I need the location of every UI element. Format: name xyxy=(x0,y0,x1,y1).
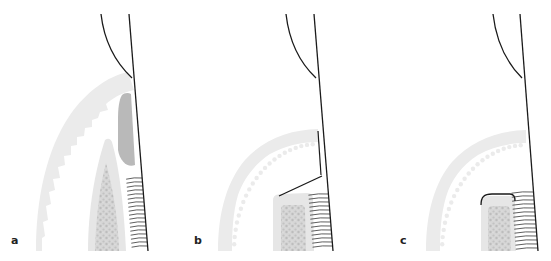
rete-peg xyxy=(480,158,484,162)
rete-peg xyxy=(239,207,243,211)
rete-peg xyxy=(519,143,523,147)
rete-peg xyxy=(471,167,475,171)
periodontal-fiber xyxy=(130,230,146,231)
bone-cancellous-b xyxy=(281,205,306,251)
lesion-a xyxy=(118,93,135,166)
periodontal-fiber xyxy=(512,204,534,205)
periodontal-fiber xyxy=(126,182,142,183)
crown-outline-c xyxy=(493,14,522,78)
periodontal-fiber xyxy=(131,238,147,239)
periodontal-fiber xyxy=(515,244,537,245)
rete-peg xyxy=(462,177,466,181)
rete-peg xyxy=(445,214,449,218)
rete-peg xyxy=(311,142,315,146)
periodontal-fiber xyxy=(310,218,330,219)
epithelium-line-b xyxy=(318,131,321,175)
panel-label-c: c xyxy=(400,234,407,247)
rete-peg xyxy=(283,151,287,155)
periodontal-fiber xyxy=(128,202,144,203)
rete-peg xyxy=(254,176,258,180)
rete-peg xyxy=(459,182,463,186)
rete-peg xyxy=(502,147,506,151)
rete-peg xyxy=(272,157,276,161)
periodontal-fiber xyxy=(514,224,536,225)
rete-peg xyxy=(491,152,495,156)
periodontal-fiber xyxy=(131,234,147,235)
periodontal-fiber xyxy=(514,220,536,221)
periodontal-fiber xyxy=(515,240,537,241)
rete-peg xyxy=(237,213,241,217)
rete-peg xyxy=(452,194,456,198)
periodontal-fiber xyxy=(512,196,534,197)
periodontal-fiber xyxy=(311,230,331,231)
rete-peg xyxy=(267,161,271,165)
panel-b: b xyxy=(194,14,333,251)
periodontal-fiber xyxy=(311,222,331,223)
rete-peg xyxy=(305,143,309,147)
panel-label-a: a xyxy=(11,234,18,247)
rete-peg xyxy=(455,188,459,192)
periodontal-fiber xyxy=(127,194,143,195)
periodontal-fiber xyxy=(129,210,145,211)
periodontal-fiber xyxy=(312,234,332,235)
incision-line-b xyxy=(279,176,322,196)
rete-peg xyxy=(251,181,255,185)
periodontal-fiber xyxy=(311,226,331,227)
periodontal-fiber xyxy=(513,212,535,213)
periodontal-fiber xyxy=(312,242,332,243)
rete-peg xyxy=(244,193,248,197)
rete-peg xyxy=(234,228,238,232)
crown-outline-a xyxy=(101,14,132,78)
rete-peg xyxy=(447,207,451,211)
rete-peg xyxy=(294,146,298,150)
bone-cancellous-c xyxy=(488,206,511,251)
periodontal-fiber xyxy=(128,198,144,199)
rete-peg xyxy=(259,171,263,175)
periodontal-fiber xyxy=(130,226,146,227)
rete-peg xyxy=(235,220,239,224)
periodontal-fiber xyxy=(130,222,146,223)
periodontal-fiber xyxy=(126,178,142,179)
periodontal-fiber xyxy=(513,216,535,217)
rete-peg xyxy=(475,162,479,166)
periodontal-fiber xyxy=(132,246,148,247)
periodontal-fiber xyxy=(515,232,537,233)
periodontal-fiber xyxy=(515,236,537,237)
periodontal-fiber xyxy=(129,214,145,215)
rete-peg xyxy=(513,144,517,148)
periodontal-fiber xyxy=(514,228,536,229)
rete-peg xyxy=(485,155,489,159)
panel-label-b: b xyxy=(194,234,202,247)
periodontal-fiber xyxy=(128,206,144,207)
periodontal-fiber xyxy=(516,248,538,249)
rete-peg xyxy=(449,200,453,204)
rete-peg xyxy=(441,235,445,239)
rete-peg xyxy=(442,228,446,232)
rete-peg xyxy=(241,200,245,204)
rete-peg xyxy=(443,221,447,225)
periodontal-fiber xyxy=(131,242,147,243)
periodontal-fiber xyxy=(312,238,332,239)
panel-a: a xyxy=(11,14,148,251)
rete-peg xyxy=(263,166,267,170)
rete-peg xyxy=(440,242,444,246)
crown-outline-b xyxy=(286,14,316,78)
rete-peg xyxy=(247,187,251,191)
rete-peg xyxy=(496,149,500,153)
rete-peg xyxy=(467,171,471,175)
periodontal-fiber xyxy=(129,218,145,219)
periodontal-fiber xyxy=(127,186,143,187)
periodontal-fiber xyxy=(127,190,143,191)
panel-c: c xyxy=(400,14,538,251)
rete-peg xyxy=(299,144,303,148)
periodontal-fiber xyxy=(512,192,534,193)
rete-peg xyxy=(233,235,237,239)
dental-diagram: a b c xyxy=(0,0,551,261)
rete-peg xyxy=(232,242,236,246)
periodontal-fiber xyxy=(308,194,328,195)
rete-peg xyxy=(288,148,292,152)
rete-peg xyxy=(277,154,281,158)
rete-peg xyxy=(507,145,511,149)
periodontal-fiber xyxy=(313,246,333,247)
periodontal-fiber xyxy=(513,208,535,209)
